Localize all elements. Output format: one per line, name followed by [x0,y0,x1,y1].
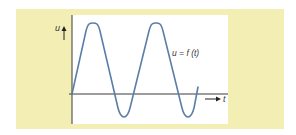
function-label: u = f (t) [172,48,199,58]
x-axis-label: t [223,94,226,104]
x-axis-arrow-icon [205,97,221,102]
waveform-chart: u t u = f (t) [0,0,296,135]
y-axis-label: u [55,23,60,33]
waveform-curve [72,23,198,117]
y-axis-arrow-icon [62,26,67,40]
